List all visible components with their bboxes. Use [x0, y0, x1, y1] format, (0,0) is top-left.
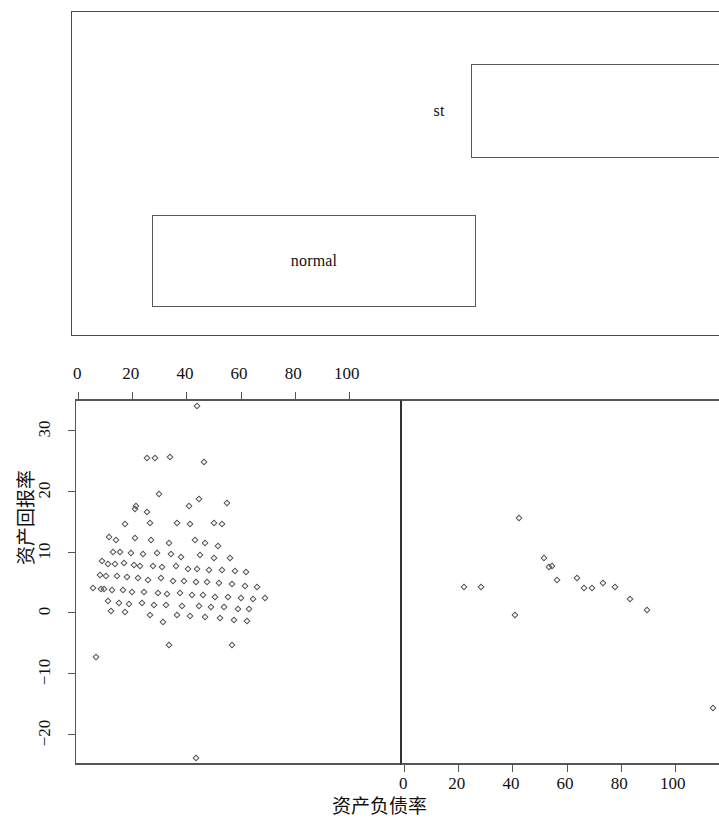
y-tick-label-0: 0: [35, 596, 55, 626]
y-axis-title: 资产回报率: [11, 458, 38, 578]
x-tick-bottom-80: [621, 765, 622, 772]
y-tick-label-30: 30: [35, 414, 55, 444]
x-tick-top-60: [241, 392, 242, 399]
x-axis-title: 资产负债率: [0, 791, 719, 818]
y-tick-label--20: −20: [35, 718, 55, 748]
scatter-plot-area: 020406080100020406080100−20−100102030 资产…: [0, 336, 719, 829]
x-tick-top-0: [78, 392, 79, 399]
strip-label-normal: normal: [291, 252, 338, 270]
y-tick-label--10: −10: [35, 657, 55, 687]
x-tick-bottom-20: [458, 765, 459, 772]
x-tick-label-top-20: 20: [122, 364, 139, 384]
x-tick-label-top-60: 60: [231, 364, 248, 384]
strip-label-st: st: [433, 102, 444, 120]
y-tick-label-10: 10: [35, 536, 55, 566]
x-tick-label-top-40: 40: [176, 364, 193, 384]
bottom-axis-line: [75, 764, 719, 765]
x-tick-label-top-0: 0: [73, 364, 82, 384]
x-tick-label-top-80: 80: [285, 364, 302, 384]
x-tick-top-100: [349, 392, 350, 399]
y-tick-label-20: 20: [35, 475, 55, 505]
y-tick-30: [68, 430, 75, 431]
x-tick-top-80: [295, 392, 296, 399]
y-tick-10: [68, 552, 75, 553]
x-tick-top-40: [186, 392, 187, 399]
y-tick--20: [68, 734, 75, 735]
panel-divider: [400, 400, 401, 765]
x-tick-label-top-100: 100: [334, 364, 360, 384]
x-tick-bottom-0: [404, 765, 405, 772]
x-tick-bottom-60: [567, 765, 568, 772]
x-tick-bottom-100: [675, 765, 676, 772]
strip-box-st: st: [471, 64, 719, 158]
panel-normal: [75, 400, 401, 764]
y-tick-0: [68, 612, 75, 613]
strip-box-normal: normal: [152, 215, 476, 307]
x-tick-bottom-40: [512, 765, 513, 772]
panel-st: [401, 400, 719, 764]
strip-panel: st normal: [71, 11, 719, 336]
y-tick--10: [68, 673, 75, 674]
x-tick-top-20: [132, 392, 133, 399]
y-tick-20: [68, 491, 75, 492]
